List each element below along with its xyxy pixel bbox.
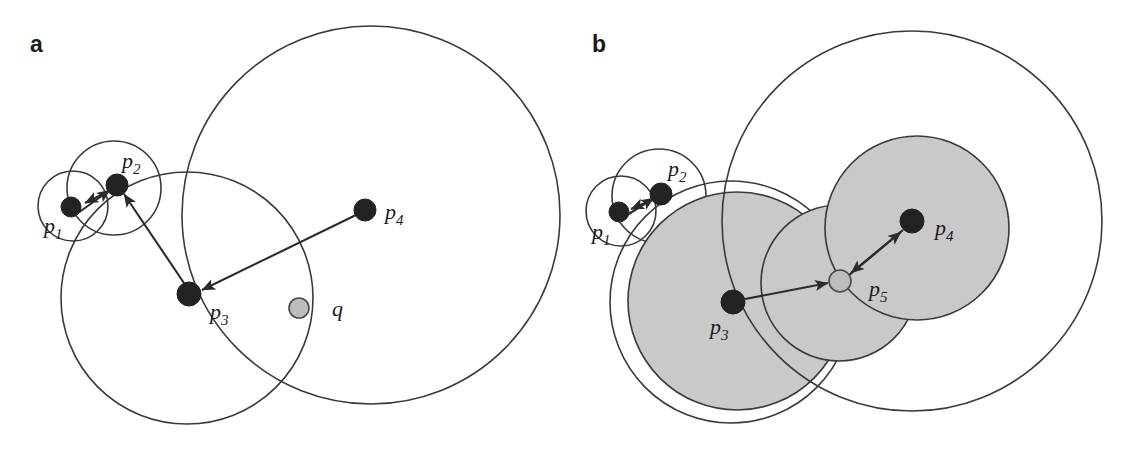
point-p4: [900, 209, 924, 233]
point-p3: [721, 290, 745, 314]
label-p4: p4: [383, 199, 404, 228]
label-p1: p1: [590, 219, 611, 248]
label-p2: p2: [120, 148, 141, 177]
arrow-p3-to-p2: [124, 194, 186, 286]
arrow-p4-to-p3: [202, 215, 356, 290]
label-p1: p1: [42, 213, 63, 242]
figure-root: p1p2p3p4qap1p2p3p4p5b: [0, 0, 1131, 451]
point-p4: [354, 199, 376, 221]
label-p3: p3: [208, 299, 229, 328]
point-p3: [177, 282, 201, 306]
panel-letter-a: a: [30, 31, 43, 57]
label-q: q: [332, 296, 343, 321]
point-p5: [829, 270, 851, 292]
point-p1: [61, 197, 81, 217]
point-q: [289, 298, 309, 318]
point-p2: [106, 174, 128, 196]
panel-letter-b: b: [592, 31, 606, 57]
label-p2: p2: [666, 156, 687, 185]
panels-layer: p1p2p3p4qap1p2p3p4p5b: [30, 26, 1102, 424]
point-p2: [650, 183, 672, 205]
diagram-canvas: p1p2p3p4qap1p2p3p4p5b: [0, 0, 1131, 451]
point-p1: [609, 202, 629, 222]
panel-b: p1p2p3p4p5b: [586, 31, 1102, 423]
panel-a: p1p2p3p4qa: [30, 26, 560, 424]
